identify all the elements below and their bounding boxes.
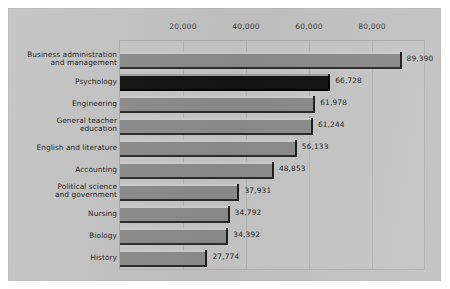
bar-row[interactable]: Political scienceand government37,931: [8, 181, 441, 203]
bar-value-label: 37,931: [244, 186, 271, 195]
bar-right-edge: [205, 250, 207, 267]
bar-right-edge: [272, 162, 274, 179]
bar-row[interactable]: History27,774: [8, 247, 441, 269]
bar-top-highlight: [120, 74, 330, 76]
bar-top-highlight: [120, 52, 402, 54]
bar[interactable]: [120, 140, 297, 157]
bar-bottom-shadow: [120, 243, 228, 245]
bar-bottom-shadow: [120, 67, 402, 69]
bar-value-label: 56,133: [302, 142, 329, 151]
bar-value-label: 61,244: [318, 120, 345, 129]
bar-value-label: 48,853: [279, 164, 306, 173]
bar-bottom-shadow: [120, 221, 230, 223]
bar-value-label: 27,774: [212, 252, 239, 261]
category-label: Accounting: [7, 166, 117, 174]
bar-bottom-shadow: [120, 177, 274, 179]
bar[interactable]: [120, 118, 313, 135]
bar-container[interactable]: [120, 74, 330, 91]
category-label-line1: Nursing: [7, 210, 117, 218]
category-label: Nursing: [7, 210, 117, 218]
bar-right-edge: [311, 118, 313, 135]
category-label-line2: education: [7, 125, 117, 133]
bar-row[interactable]: English and literature56,133: [8, 137, 441, 159]
chart-figure: 20,00040,00060,00080,000 Business admini…: [0, 0, 450, 289]
bar-top-highlight: [120, 162, 274, 164]
category-label-line1: Engineering: [7, 100, 117, 108]
bar-container[interactable]: [120, 96, 315, 113]
bar-top-highlight: [120, 140, 297, 142]
bar-value-label: 66,728: [335, 76, 362, 85]
category-label: Political scienceand government: [7, 183, 117, 200]
bar[interactable]: [120, 250, 207, 267]
chart-panel: 20,00040,00060,00080,000 Business admini…: [8, 8, 441, 281]
bar-bottom-shadow: [120, 155, 297, 157]
bar-right-edge: [237, 184, 239, 201]
category-label: Biology: [7, 232, 117, 240]
category-label-line1: English and literature: [7, 144, 117, 152]
bar-rows: Business administrationand management89,…: [8, 8, 441, 281]
bar-container[interactable]: [120, 140, 297, 157]
bar-container[interactable]: [120, 162, 274, 179]
category-label: General teachereducation: [7, 117, 117, 134]
category-label: Engineering: [7, 100, 117, 108]
bar-row[interactable]: Biology34,392: [8, 225, 441, 247]
bar-value-label: 34,392: [233, 230, 260, 239]
category-label-line2: and government: [7, 191, 117, 199]
bar[interactable]: [120, 96, 315, 113]
bar-top-highlight: [120, 206, 230, 208]
bar-top-highlight: [120, 184, 239, 186]
bar-container[interactable]: [120, 228, 228, 245]
bar-right-edge: [328, 74, 330, 91]
bar-container[interactable]: [120, 250, 207, 267]
category-label: History: [7, 254, 117, 262]
bar-top-highlight: [120, 228, 228, 230]
bar-value-label: 89,390: [407, 54, 434, 63]
category-label: Business administrationand management: [7, 51, 117, 68]
bar-bottom-shadow: [120, 133, 313, 135]
bar-container[interactable]: [120, 206, 230, 223]
bar-value-label: 34,792: [235, 208, 262, 217]
bar-row[interactable]: Accounting48,853: [8, 159, 441, 181]
bar-container[interactable]: [120, 184, 239, 201]
category-label-line2: and management: [7, 59, 117, 67]
bar-container[interactable]: [120, 118, 313, 135]
bar-right-edge: [295, 140, 297, 157]
category-label-line1: Biology: [7, 232, 117, 240]
bar-row[interactable]: Nursing34,792: [8, 203, 441, 225]
bar[interactable]: [120, 184, 239, 201]
bar-row[interactable]: Psychology66,728: [8, 71, 441, 93]
bar-row[interactable]: Business administrationand management89,…: [8, 49, 441, 71]
bar-right-edge: [226, 228, 228, 245]
bar[interactable]: [120, 228, 228, 245]
category-label-line1: Psychology: [7, 78, 117, 86]
bar-right-edge: [313, 96, 315, 113]
bar-right-edge: [400, 52, 402, 69]
bar-top-highlight: [120, 96, 315, 98]
bar-row[interactable]: Engineering61,978: [8, 93, 441, 115]
bar-bottom-shadow: [120, 199, 239, 201]
bar-bottom-shadow: [120, 111, 315, 113]
bar-bottom-shadow: [120, 265, 207, 267]
category-label: Psychology: [7, 78, 117, 86]
bar-row[interactable]: General teachereducation61,244: [8, 115, 441, 137]
bar[interactable]: [120, 206, 230, 223]
bar-highlighted[interactable]: [120, 74, 330, 91]
category-label-line1: Accounting: [7, 166, 117, 174]
bar-right-edge: [228, 206, 230, 223]
bar-container[interactable]: [120, 52, 402, 69]
bar[interactable]: [120, 52, 402, 69]
bar[interactable]: [120, 162, 274, 179]
bar-value-label: 61,978: [320, 98, 347, 107]
bar-top-highlight: [120, 250, 207, 252]
category-label: English and literature: [7, 144, 117, 152]
bar-top-highlight: [120, 118, 313, 120]
bar-bottom-shadow: [120, 89, 330, 91]
category-label-line1: History: [7, 254, 117, 262]
